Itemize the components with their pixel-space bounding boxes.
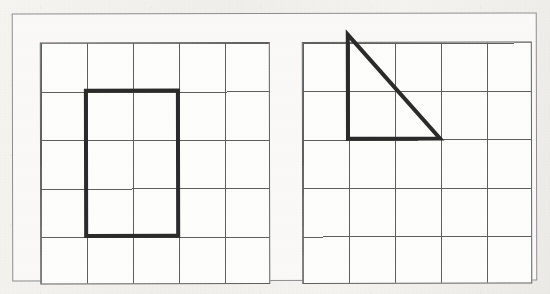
triangle-panel <box>302 41 533 283</box>
rectangle-svg <box>40 42 271 284</box>
figure-page <box>0 0 550 294</box>
triangle-shape-layer <box>302 41 533 283</box>
rectangle-panel <box>40 42 271 284</box>
scan-skew-wrapper <box>0 0 550 294</box>
rectangle-shape-layer <box>40 42 271 284</box>
triangle-outline <box>348 34 440 138</box>
figure-outer-frame <box>12 12 538 281</box>
triangle-svg <box>302 41 533 283</box>
rectangle-outline <box>86 91 178 236</box>
